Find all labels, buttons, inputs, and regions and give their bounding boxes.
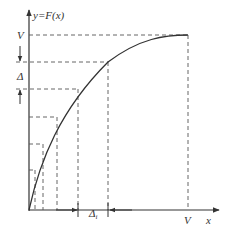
delta-i-label: Δi <box>88 207 97 221</box>
cdf-curve <box>29 35 188 210</box>
x-max-label: V <box>184 214 192 226</box>
y-max-label: V <box>17 29 25 41</box>
y-axis-label: y=F(x) <box>32 9 65 22</box>
delta-label: Δ <box>16 70 23 82</box>
x-axis-label: x <box>205 214 211 226</box>
diagram-canvas: y=F(x) V Δ V x Δi <box>0 0 228 227</box>
dashed-guides <box>16 35 188 210</box>
